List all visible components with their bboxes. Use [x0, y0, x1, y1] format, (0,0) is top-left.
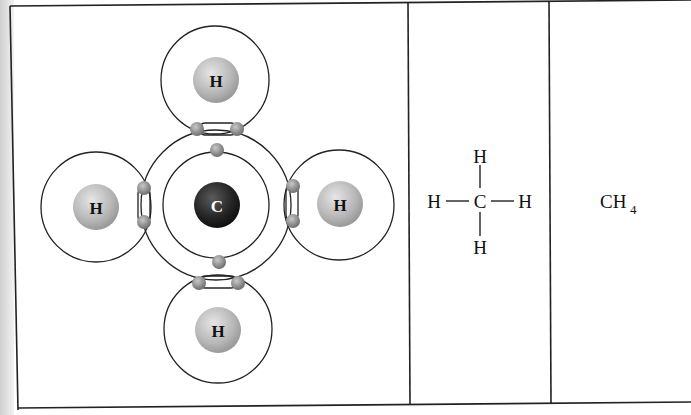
- methane-diagram: H H H H C H H C H H CH 4: [0, 0, 691, 415]
- formula-subscript: 4: [630, 202, 637, 217]
- struct-h-left: H: [427, 191, 441, 212]
- struct-h-bottom: H: [473, 237, 487, 258]
- formula-base: CH: [600, 191, 627, 212]
- struct-h-right: H: [518, 191, 532, 212]
- atom-label-h-right: H: [333, 196, 346, 215]
- atom-label-c: C: [211, 197, 223, 216]
- atom-label-h-bottom: H: [211, 322, 224, 341]
- struct-c-center: C: [474, 191, 487, 212]
- atom-label-h-left: H: [89, 199, 102, 218]
- atom-label-h-top: H: [209, 72, 222, 91]
- structural-formula: H H C H H: [427, 146, 532, 258]
- molecular-formula: CH 4: [600, 191, 637, 217]
- struct-h-top: H: [473, 146, 487, 167]
